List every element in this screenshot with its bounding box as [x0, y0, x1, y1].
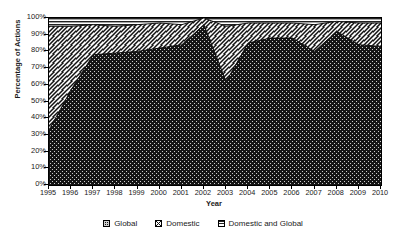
y-axis-tick-label: 90%	[6, 30, 46, 38]
y-axis-tick-label: 80%	[6, 46, 46, 54]
chart-legend: Global Domestic Domestic and Global	[0, 219, 406, 228]
legend-item-domestic[interactable]: Domestic	[155, 219, 199, 228]
y-axis-tick-label: 40%	[6, 113, 46, 121]
chart-root: Percentage of Actions 100%90%80%70%60%50…	[0, 0, 406, 246]
x-axis-tick-mark	[48, 185, 49, 189]
x-axis-tick-mark	[380, 185, 381, 189]
legend-swatch-domestic-and-global-icon	[218, 220, 225, 227]
legend-label-domestic-and-global: Domestic and Global	[229, 219, 303, 228]
y-axis-tick-label: 60%	[6, 80, 46, 88]
plot-area	[48, 17, 382, 186]
legend-item-domestic-and-global[interactable]: Domestic and Global	[218, 219, 303, 228]
x-axis-tick-mark	[247, 185, 248, 189]
x-axis-tick-mark	[314, 185, 315, 189]
stacked-area-svg	[49, 18, 381, 185]
x-axis-tick-mark	[269, 185, 270, 189]
x-axis-title: Year	[48, 199, 380, 208]
x-axis-tick-mark	[336, 185, 337, 189]
x-axis-tick-label: 2010	[365, 188, 395, 197]
x-axis-tick-mark	[225, 185, 226, 189]
y-axis-tick-label: 20%	[6, 147, 46, 155]
x-axis-tick-mark	[92, 185, 93, 189]
x-axis-tick-mark	[291, 185, 292, 189]
x-axis-tick-mark	[114, 185, 115, 189]
y-axis-tick-label: 50%	[6, 97, 46, 105]
legend-swatch-global-icon	[103, 220, 110, 227]
legend-label-domestic: Domestic	[166, 219, 199, 228]
y-axis-tick-label: 30%	[6, 130, 46, 138]
x-axis-tick-mark	[70, 185, 71, 189]
x-axis-tick-mark	[358, 185, 359, 189]
y-axis-tick-label: 100%	[6, 13, 46, 21]
legend-label-global: Global	[114, 219, 137, 228]
x-axis-tick-mark	[181, 185, 182, 189]
x-axis-tick-mark	[137, 185, 138, 189]
y-axis-tick-label: 10%	[6, 163, 46, 171]
x-axis-tick-mark	[203, 185, 204, 189]
x-axis-tick-mark	[159, 185, 160, 189]
y-axis-tick-label: 0%	[6, 180, 46, 188]
y-axis-tick-label: 70%	[6, 63, 46, 71]
legend-swatch-domestic-icon	[155, 220, 162, 227]
legend-item-global[interactable]: Global	[103, 219, 137, 228]
